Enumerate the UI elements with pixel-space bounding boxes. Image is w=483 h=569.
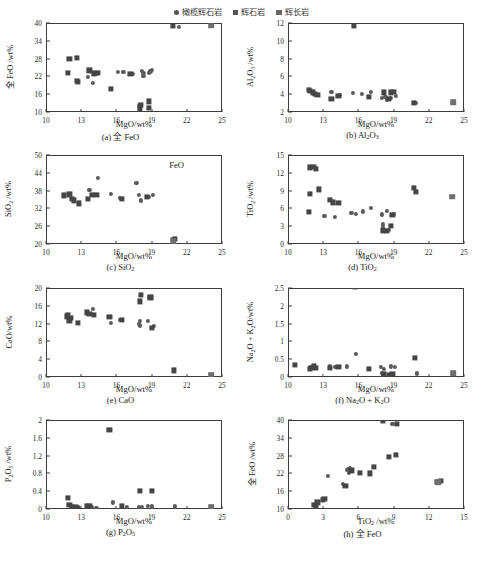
x-axis-label: MgO/wt% <box>46 251 222 261</box>
data-point <box>315 500 320 505</box>
panel-b: 24681012101316192225Al2O3 /wt%MgO/wt%(b)… <box>242 19 483 151</box>
data-point <box>366 367 371 372</box>
y-axis-label: Al2O3 /wt% <box>246 47 255 87</box>
y-tick-label: 0.4 <box>33 487 42 496</box>
data-point <box>151 193 155 197</box>
data-point <box>61 193 66 198</box>
y-tick-label: 15 <box>277 151 284 160</box>
data-points-e <box>46 288 222 377</box>
y-axis-label: SiO2 /wt% <box>4 181 13 217</box>
panel-caption: (e) CaO <box>0 395 241 405</box>
data-point <box>150 68 154 72</box>
plot-area-d: 03691215101316192225 <box>288 155 464 244</box>
data-point <box>322 497 327 502</box>
data-point <box>209 23 215 28</box>
y-axis-label: CaO/wt% <box>5 315 14 348</box>
data-point <box>115 70 119 74</box>
data-point <box>120 504 125 509</box>
data-point <box>328 366 333 371</box>
data-point <box>354 212 358 216</box>
data-point <box>68 316 73 321</box>
y-tick-label: 8 <box>280 54 284 63</box>
data-point <box>209 372 215 377</box>
plot-area-h: 10162228344003691215 <box>288 420 464 509</box>
plot-area-b: 24681012101316192225 <box>288 23 464 112</box>
y-tick-label: 22 <box>35 72 42 81</box>
data-point <box>329 89 333 93</box>
y-axis-label: TiO2 /wt% <box>246 181 255 217</box>
data-point <box>329 96 334 101</box>
data-point <box>386 96 391 101</box>
data-point <box>345 364 349 368</box>
y-axis-label: P2O5 /wt% <box>4 446 13 482</box>
data-point <box>369 89 373 93</box>
data-point <box>384 228 389 233</box>
data-point <box>75 79 80 84</box>
data-point <box>75 320 80 325</box>
data-point <box>389 224 394 229</box>
x-axis-label: MgO/wt% <box>46 384 222 394</box>
data-point <box>336 93 341 98</box>
y-tick-label: 4 <box>38 355 42 364</box>
data-point <box>314 166 319 171</box>
plot-area-f: 00.511.522.5101316192225 <box>288 288 464 377</box>
panel-c: 202632384450101316192225FeOSiO2 /wt%MgO/… <box>0 151 241 283</box>
data-point <box>357 470 362 475</box>
panel-f: 00.511.522.5101316192225Na2O + K2O/wt%Mg… <box>242 284 483 416</box>
data-point <box>108 86 113 91</box>
data-point <box>449 194 455 200</box>
data-point <box>435 480 441 486</box>
data-point <box>125 505 129 509</box>
data-point <box>147 105 152 110</box>
y-tick-label: 12 <box>35 319 42 328</box>
y-tick-label: 50 <box>35 151 42 160</box>
panel-caption: (b) Al2O3 <box>242 130 483 140</box>
legend-label: 辉石岩 <box>241 8 265 16</box>
data-point <box>96 176 100 180</box>
data-point <box>150 504 154 508</box>
data-point <box>395 422 400 427</box>
data-point <box>390 372 395 377</box>
data-point <box>170 23 175 28</box>
y-tick-label: 44 <box>35 168 42 177</box>
y-tick-label: 0.8 <box>33 469 42 478</box>
data-point <box>413 189 418 194</box>
data-point <box>138 102 143 107</box>
data-point <box>366 94 371 99</box>
data-point <box>107 314 112 319</box>
data-point <box>86 75 90 79</box>
data-point <box>111 500 115 504</box>
data-point <box>307 209 312 214</box>
data-point <box>360 92 364 96</box>
data-point <box>137 299 142 304</box>
data-point <box>391 89 396 94</box>
data-point <box>171 368 176 373</box>
y-tick-label: 10 <box>35 108 42 117</box>
data-points-c <box>46 155 222 244</box>
panel-caption: (h) 全 FeO <box>242 527 483 539</box>
data-point <box>351 23 356 28</box>
data-point <box>316 187 321 192</box>
data-point <box>350 91 354 95</box>
panel-caption: (g) P2O5 <box>0 527 241 537</box>
data-point <box>343 483 348 488</box>
y-tick-label: 6 <box>280 72 284 81</box>
data-point <box>380 420 385 423</box>
data-point <box>87 503 92 508</box>
data-point <box>314 365 319 370</box>
data-point <box>94 192 99 197</box>
data-point <box>380 212 384 216</box>
data-point <box>171 238 177 244</box>
data-point <box>451 99 457 105</box>
data-points-f <box>288 288 464 377</box>
data-point <box>146 319 150 323</box>
data-point <box>66 495 71 500</box>
y-tick-label: 16 <box>35 90 42 99</box>
data-point <box>137 489 142 494</box>
data-point <box>315 92 320 97</box>
data-point <box>349 468 354 473</box>
data-point <box>330 200 335 205</box>
data-point <box>92 312 97 317</box>
data-point <box>322 213 326 217</box>
y-tick-label: 40 <box>35 19 42 28</box>
